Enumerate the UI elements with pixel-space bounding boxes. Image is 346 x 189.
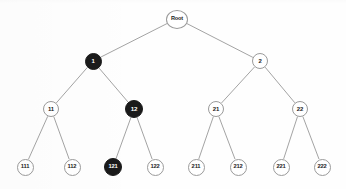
tree-node-122[interactable]: 122: [147, 159, 164, 176]
tree-node-label: 111: [21, 164, 29, 170]
tree-edge: [303, 116, 319, 159]
tree-node-root[interactable]: Root: [166, 10, 188, 29]
tree-node-221[interactable]: 221: [273, 159, 290, 176]
tree-node-label: 112: [68, 164, 77, 170]
tree-node-label: 122: [150, 164, 159, 170]
tree-edge: [101, 23, 168, 57]
tree-node-label: 2: [258, 58, 261, 64]
tree-node-112[interactable]: 112: [64, 159, 81, 176]
tree-edge: [116, 117, 131, 158]
tree-edge: [137, 117, 152, 159]
tree-node-label: 1: [91, 58, 94, 64]
tree-edge: [99, 67, 129, 102]
tree-diagram-canvas: Root1211122122111112121122211212221222: [0, 0, 346, 189]
tree-node-label: 121: [108, 164, 117, 170]
tree-node-label: 22: [297, 106, 303, 112]
tree-edge: [54, 117, 69, 159]
tree-node-11[interactable]: 11: [43, 101, 59, 117]
tree-edge: [265, 67, 295, 103]
tree-node-222[interactable]: 222: [314, 159, 331, 176]
tree-edge: [28, 116, 47, 159]
tree-node-label: 21: [213, 106, 219, 112]
tree-edge: [186, 23, 252, 57]
tree-node-211[interactable]: 211: [188, 159, 205, 176]
tree-edge: [284, 117, 298, 159]
tree-edge: [221, 67, 254, 103]
tree-node-12[interactable]: 12: [125, 100, 143, 118]
tree-edge: [219, 116, 235, 159]
tree-node-21[interactable]: 21: [208, 101, 224, 117]
tree-node-1[interactable]: 1: [85, 53, 102, 70]
tree-node-22[interactable]: 22: [292, 101, 308, 117]
tree-node-121[interactable]: 121: [104, 158, 122, 176]
tree-node-label: Root: [171, 16, 183, 22]
tree-edge: [56, 67, 87, 103]
tree-node-label: 221: [276, 164, 285, 170]
tree-node-212[interactable]: 212: [230, 159, 247, 176]
tree-node-2[interactable]: 2: [252, 53, 268, 69]
tree-node-label: 12: [131, 106, 137, 112]
tree-node-111[interactable]: 111: [17, 159, 34, 176]
tree-edge: [199, 117, 214, 159]
tree-node-label: 222: [317, 164, 326, 170]
tree-node-label: 212: [233, 164, 242, 170]
tree-node-label: 11: [48, 106, 54, 112]
tree-node-label: 211: [192, 164, 201, 170]
